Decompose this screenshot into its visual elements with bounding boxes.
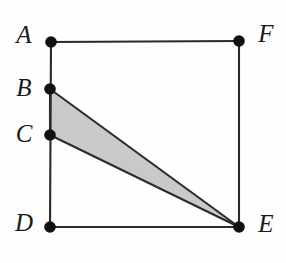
vertex-dot-b xyxy=(44,83,56,95)
vertex-dot-e xyxy=(233,221,245,233)
vertex-dot-a xyxy=(45,36,57,48)
shaded-region-layer xyxy=(50,89,239,227)
vertex-dot-f xyxy=(233,35,245,47)
edge-af xyxy=(51,41,239,42)
vertex-dot-c xyxy=(44,129,56,141)
vertex-label-c: C xyxy=(16,120,33,147)
vertex-label-a: A xyxy=(14,21,32,48)
vertex-label-e: E xyxy=(257,210,273,237)
vertex-label-f: F xyxy=(257,20,274,47)
shaded-triangle-bce xyxy=(50,89,239,227)
vertex-label-b: B xyxy=(16,74,31,101)
vertex-dot-d xyxy=(44,221,56,233)
vertex-label-d: D xyxy=(14,209,33,236)
geometry-figure: ABCDEF xyxy=(0,0,286,263)
figure-canvas: ABCDEF xyxy=(0,0,286,263)
